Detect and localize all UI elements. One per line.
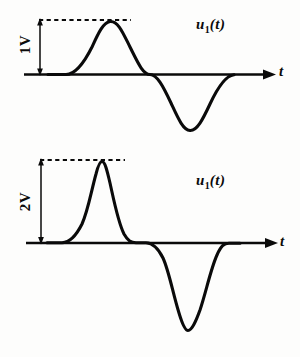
signal-argument-bottom: (t): [210, 172, 226, 188]
signal-label-top: u1(t): [196, 16, 226, 35]
amplitude-label-bottom: 2V: [17, 185, 34, 219]
plot-top: [24, 18, 276, 131]
amplitude-label-top: 1V: [17, 28, 34, 62]
amplitude-arrow-top: [37, 18, 43, 76]
time-axis-label-bottom: t: [280, 233, 284, 250]
signal-argument-top: (t): [210, 16, 226, 32]
signal-base-bottom: u: [196, 172, 205, 188]
plot-bottom: [26, 158, 278, 331]
waveform-figure: u1(t) t 1V u1(t) t 2V: [0, 0, 300, 357]
waveform-curve-top: [48, 21, 234, 130]
time-axis-label-top: t: [279, 63, 283, 80]
signal-base-top: u: [196, 16, 205, 32]
waveform-canvas: [0, 0, 300, 357]
amplitude-arrow-bottom: [38, 158, 44, 245]
signal-label-bottom: u1(t): [196, 172, 226, 191]
